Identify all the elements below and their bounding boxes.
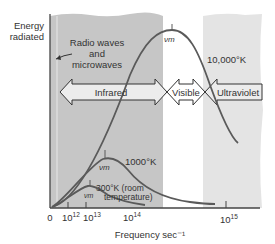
visible-label: Visible [172, 87, 200, 98]
nu-m-label-300K: νm [84, 192, 94, 199]
nu-m-label-1000K: νm [99, 163, 110, 172]
tick-label-10-14: 1014 [123, 211, 141, 223]
curve-300K-label-line2: temperature) [104, 192, 153, 202]
radio-label-line3: microwaves [72, 59, 122, 70]
ultraviolet-region-shade [203, 14, 263, 208]
blackbody-chart: Energy radiated Radio waves and microwav… [0, 0, 275, 244]
tick-label-0: 0 [47, 212, 52, 223]
curve-10000K-label: 10,000°K [207, 54, 247, 65]
ultraviolet-label: Ultraviolet [217, 87, 260, 98]
tick-label-10-13: 1013 [83, 211, 101, 223]
radio-label-line2: and [89, 48, 105, 59]
x-axis-title: Frequency sec⁻¹ [115, 229, 185, 240]
tick-label-10-15: 1015 [220, 213, 238, 225]
curve-1000K-label: 1000°K [125, 156, 157, 167]
nu-m-label-10000K: νm [164, 35, 175, 44]
infrared-label: Infrared [95, 87, 128, 98]
radio-label-line1: Radio waves [70, 37, 125, 48]
tick-label-10-12: 1012 [62, 211, 80, 223]
y-axis-label-line2: radiated [10, 31, 44, 42]
y-axis-label-line1: Energy [14, 20, 44, 31]
